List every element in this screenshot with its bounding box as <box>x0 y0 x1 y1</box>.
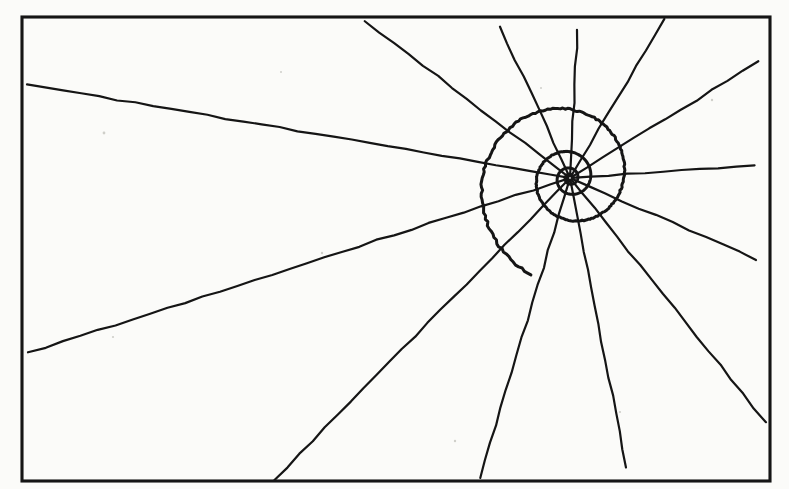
figure-root <box>0 0 789 489</box>
paper-speck <box>711 99 713 101</box>
paper-speck <box>112 336 114 338</box>
paper-speck <box>321 252 323 254</box>
paper-speck <box>454 440 456 442</box>
paper-speck <box>280 71 282 73</box>
paper-background <box>0 0 789 489</box>
paper-speck <box>540 87 542 89</box>
paper-speck <box>619 411 621 413</box>
spiral-grid-figure <box>0 0 789 489</box>
paper-speck <box>103 132 106 135</box>
